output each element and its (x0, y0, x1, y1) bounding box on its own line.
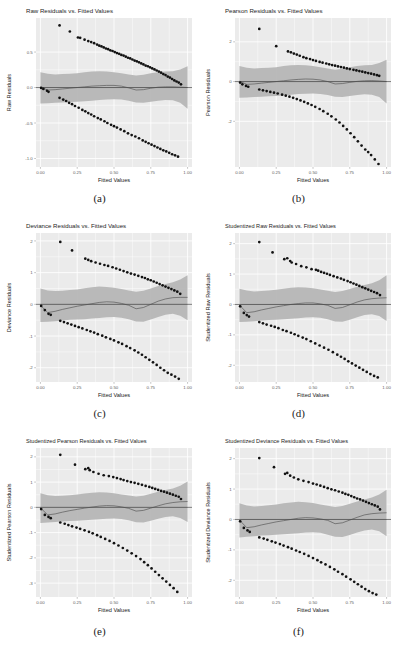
y-tick-label: -2 (228, 363, 232, 368)
data-point (303, 552, 306, 555)
x-tick-label: 1.00 (382, 385, 391, 390)
data-point (348, 68, 351, 71)
data-point (302, 479, 305, 482)
data-point (84, 257, 87, 260)
data-point (373, 504, 376, 507)
data-point (286, 257, 289, 260)
data-point (326, 112, 329, 115)
y-axis-title: Raw Residuals (6, 74, 12, 112)
subcaption-d: (d) (199, 407, 398, 419)
data-point (177, 81, 180, 84)
data-point (174, 154, 177, 157)
data-point (90, 41, 93, 44)
y-tick-label: 0 (229, 79, 232, 84)
data-point (81, 327, 84, 330)
data-point (106, 122, 109, 125)
data-point (92, 471, 95, 474)
data-point (295, 549, 298, 552)
data-point (125, 345, 128, 348)
data-point (293, 333, 296, 336)
data-point (66, 322, 69, 325)
data-point (116, 126, 119, 129)
data-point (74, 463, 77, 466)
data-point (180, 498, 183, 501)
data-point (113, 125, 116, 128)
data-point (360, 585, 363, 588)
data-point (337, 65, 340, 68)
data-point (89, 330, 92, 333)
data-point (290, 331, 293, 334)
data-point (248, 315, 251, 318)
data-point (343, 278, 346, 281)
data-point (158, 574, 161, 577)
data-point (375, 593, 378, 596)
data-point (340, 277, 343, 280)
data-point (369, 373, 372, 376)
data-point (62, 98, 65, 101)
data-point (290, 51, 293, 54)
data-point (130, 272, 133, 275)
data-point (320, 561, 323, 564)
y-tick-label: 0 (30, 302, 33, 307)
data-point (324, 563, 327, 566)
data-point (59, 521, 62, 524)
data-point (307, 555, 310, 558)
data-point (379, 508, 382, 511)
subcaption-c: (c) (0, 407, 199, 419)
plot-title: Pearson Residuals vs. Fitted Values (225, 7, 322, 14)
plot-title: Studentized Pearson Residuals vs. Fitted… (26, 438, 147, 444)
data-point (133, 482, 136, 485)
x-tick-label: 1.00 (183, 385, 192, 390)
data-point (355, 283, 358, 286)
data-point (141, 276, 144, 279)
x-tick-label: 0.50 (110, 385, 119, 390)
data-point (130, 552, 133, 555)
data-point (63, 321, 66, 324)
data-point (287, 50, 290, 53)
data-point (164, 285, 167, 288)
figure-panel-grid: 0.000.250.500.751.000.50.0-0.5-1.0Fitted… (0, 0, 398, 651)
data-point (63, 522, 66, 525)
y-axis-title: Studentized Pearson Residuals (6, 483, 12, 561)
data-point (40, 508, 43, 511)
data-point (163, 490, 166, 493)
data-point (121, 343, 124, 346)
data-point (273, 326, 276, 329)
data-point (367, 151, 370, 154)
data-point (83, 529, 86, 532)
data-point (154, 488, 157, 491)
data-point (169, 584, 172, 587)
data-point (96, 333, 99, 336)
data-point (302, 56, 305, 59)
data-point (317, 269, 320, 272)
y-tick-label: -1 (228, 332, 232, 337)
data-point (84, 110, 87, 113)
data-point (344, 493, 347, 496)
data-point (353, 136, 356, 139)
data-point (171, 78, 174, 81)
data-point (88, 530, 91, 533)
y-tick-label: -1 (29, 530, 33, 535)
data-point (119, 128, 122, 131)
data-point (347, 360, 350, 363)
x-tick-label: 0.00 (235, 170, 244, 175)
data-point (144, 485, 147, 488)
data-point (105, 336, 108, 339)
y-tick-label: 1 (30, 480, 33, 485)
data-point (68, 101, 71, 104)
data-point (155, 281, 158, 284)
y-tick-label: 1 (30, 270, 33, 275)
data-point (367, 72, 370, 75)
y-axis-title: Studentized Deviance Residuals (205, 482, 211, 563)
data-point (177, 495, 180, 498)
data-point (312, 59, 315, 62)
data-point (90, 113, 93, 116)
data-point (347, 493, 350, 496)
figure-panel-a: 0.000.250.500.751.000.50.0-0.5-1.0Fitted… (0, 0, 199, 215)
data-point (332, 351, 335, 354)
y-tick-label: -0.5 (25, 121, 33, 126)
data-point (130, 481, 133, 484)
data-point (340, 66, 343, 69)
x-tick-label: 1.00 (382, 600, 391, 605)
data-point (126, 480, 129, 483)
